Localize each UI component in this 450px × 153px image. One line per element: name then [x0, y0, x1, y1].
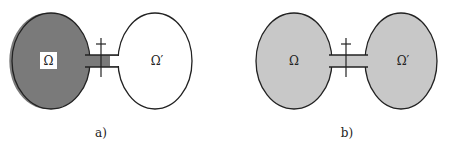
figure-a: Ω Ω′ a) [9, 13, 192, 140]
figure-a-omega-prime-label: Ω′ [151, 54, 164, 68]
figure-a-caption: a) [95, 126, 107, 140]
figure-b-omega-label: Ω [289, 54, 299, 68]
diagram-canvas: Ω Ω′ a) Ω Ω′ b) [0, 0, 450, 153]
figure-b-omega-prime-label: Ω′ [397, 54, 410, 68]
figure-a-omega-label: Ω [44, 54, 54, 68]
figure-b: Ω Ω′ b) [256, 13, 437, 140]
figure-b-caption: b) [341, 126, 353, 140]
figure-b-channel [328, 55, 368, 67]
